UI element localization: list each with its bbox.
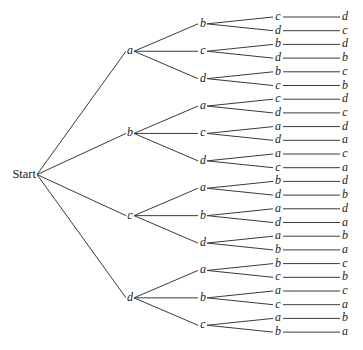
level-3-node: c bbox=[274, 79, 281, 91]
level-2-node: c bbox=[199, 319, 206, 331]
tree-edge bbox=[207, 325, 273, 332]
tree-edge bbox=[134, 270, 198, 297]
level-2-node: d bbox=[199, 72, 207, 84]
level-2-node: b bbox=[199, 17, 207, 29]
leaf-node: d bbox=[341, 10, 349, 22]
tree-edge bbox=[134, 188, 198, 215]
leaf-node: d bbox=[341, 202, 349, 214]
leaf-node: a bbox=[341, 216, 349, 228]
tree-edge bbox=[207, 72, 273, 79]
tree-edge bbox=[134, 133, 198, 160]
tree-edge bbox=[37, 175, 126, 298]
tree-edge bbox=[207, 161, 273, 168]
level-3-node: d bbox=[274, 188, 282, 200]
level-2-node: d bbox=[199, 154, 207, 166]
tree-edge bbox=[207, 270, 273, 277]
tree-edge bbox=[207, 79, 273, 86]
level-3-node: a bbox=[274, 147, 282, 159]
level-3-node: c bbox=[274, 93, 281, 105]
level-1-node: b bbox=[126, 127, 134, 139]
level-3-node: a bbox=[274, 230, 282, 242]
leaf-node: c bbox=[341, 24, 348, 36]
level-3-node: a bbox=[274, 120, 282, 132]
level-3-node: c bbox=[274, 10, 281, 22]
leaf-node: d bbox=[341, 38, 349, 50]
tree-edge bbox=[207, 24, 273, 31]
tree-edge bbox=[37, 175, 126, 216]
tree-edge bbox=[134, 51, 198, 78]
level-3-node: d bbox=[274, 216, 282, 228]
tree-edge bbox=[207, 216, 273, 223]
leaf-node: a bbox=[341, 298, 349, 310]
leaf-node: a bbox=[341, 243, 349, 255]
leaf-node: a bbox=[341, 325, 349, 337]
level-3-node: b bbox=[274, 38, 282, 50]
tree-edge bbox=[207, 181, 273, 188]
tree-edge bbox=[207, 106, 273, 113]
leaf-node: c bbox=[341, 284, 348, 296]
tree-diagram bbox=[0, 0, 363, 350]
tree-edge bbox=[207, 51, 273, 58]
tree-edge bbox=[37, 51, 126, 174]
level-3-node: d bbox=[274, 51, 282, 63]
level-2-node: a bbox=[199, 99, 207, 111]
tree-edge bbox=[207, 154, 273, 161]
level-3-node: c bbox=[274, 271, 281, 283]
tree-edge bbox=[207, 127, 273, 134]
tree-edge bbox=[207, 209, 273, 216]
tree-edge bbox=[207, 44, 273, 51]
tree-edge bbox=[134, 106, 198, 133]
tree-edge bbox=[37, 133, 126, 174]
level-2-node: d bbox=[199, 236, 207, 248]
level-3-node: b bbox=[274, 257, 282, 269]
tree-edge bbox=[134, 298, 198, 325]
level-2-node: c bbox=[199, 127, 206, 139]
level-3-node: b bbox=[274, 65, 282, 77]
leaf-node: b bbox=[341, 271, 349, 283]
tree-edge bbox=[207, 264, 273, 271]
level-2-node: c bbox=[199, 45, 206, 57]
level-2-node: a bbox=[199, 264, 207, 276]
leaf-node: c bbox=[341, 257, 348, 269]
level-1-node: d bbox=[126, 291, 134, 303]
level-2-node: b bbox=[199, 209, 207, 221]
level-3-node: b bbox=[274, 175, 282, 187]
level-3-node: a bbox=[274, 284, 282, 296]
leaf-node: d bbox=[341, 120, 349, 132]
tree-edge bbox=[207, 298, 273, 305]
leaf-node: b bbox=[341, 51, 349, 63]
level-1-node: c bbox=[126, 209, 133, 221]
start-node-label: Start bbox=[12, 168, 36, 180]
level-3-node: d bbox=[274, 106, 282, 118]
leaf-node: b bbox=[341, 312, 349, 324]
leaf-node: b bbox=[341, 188, 349, 200]
leaf-node: c bbox=[341, 147, 348, 159]
level-1-node: a bbox=[126, 45, 134, 57]
tree-edge bbox=[207, 236, 273, 243]
leaf-node: d bbox=[341, 175, 349, 187]
level-2-node: b bbox=[199, 291, 207, 303]
leaf-node: b bbox=[341, 79, 349, 91]
level-3-node: b bbox=[274, 243, 282, 255]
tree-edge bbox=[207, 291, 273, 298]
leaf-node: c bbox=[341, 106, 348, 118]
tree-edge bbox=[207, 243, 273, 250]
leaf-node: b bbox=[341, 230, 349, 242]
level-3-node: a bbox=[274, 312, 282, 324]
leaf-node: d bbox=[341, 93, 349, 105]
level-3-node: b bbox=[274, 325, 282, 337]
level-3-node: c bbox=[274, 298, 281, 310]
tree-edge bbox=[207, 188, 273, 195]
level-2-node: a bbox=[199, 182, 207, 194]
tree-edge bbox=[207, 17, 273, 24]
tree-edge bbox=[134, 216, 198, 243]
leaf-node: c bbox=[341, 65, 348, 77]
leaf-node: a bbox=[341, 134, 349, 146]
level-3-node: d bbox=[274, 24, 282, 36]
leaf-node: a bbox=[341, 161, 349, 173]
level-3-node: c bbox=[274, 161, 281, 173]
tree-edge bbox=[134, 24, 198, 51]
level-3-node: d bbox=[274, 134, 282, 146]
tree-edge bbox=[207, 99, 273, 106]
tree-edge bbox=[207, 318, 273, 325]
